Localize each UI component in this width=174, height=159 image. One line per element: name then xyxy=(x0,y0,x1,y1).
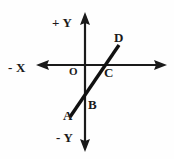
coordinate-axes-figure: + Y - X - Y O C D B A xyxy=(0,0,174,159)
point-a-label: A xyxy=(63,109,73,122)
origin-label: O xyxy=(69,66,78,77)
axes-svg xyxy=(0,0,174,159)
positive-y-axis-label: + Y xyxy=(52,16,72,29)
negative-y-axis-label: - Y xyxy=(56,131,73,144)
point-d-label: D xyxy=(114,31,124,44)
negative-x-axis-label: - X xyxy=(8,61,26,74)
point-c-label: C xyxy=(104,66,114,79)
point-b-label: B xyxy=(88,98,97,111)
